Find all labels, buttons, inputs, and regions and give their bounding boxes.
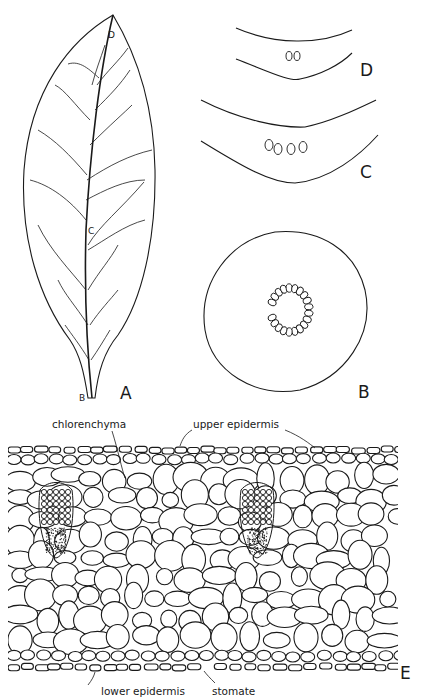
label-stomate: stomate <box>212 685 255 697</box>
label-chlorenchyma: chlorenchyma <box>52 418 126 430</box>
panel-e-tissue: chlorenchyma upper epidermis lower epide… <box>2 418 413 697</box>
mesophyll-cells <box>2 446 413 671</box>
panel-label-b: B <box>358 382 370 402</box>
panel-d-section: D <box>236 28 373 80</box>
leaf-outline <box>23 15 155 398</box>
midrib <box>85 15 113 398</box>
panel-label-a: A <box>120 383 132 403</box>
panel-c-section: C <box>201 100 378 183</box>
panel-label-d: D <box>360 60 373 80</box>
botanical-figure: D C B A D C B <box>0 0 423 700</box>
label-lower-epidermis: lower epidermis <box>101 685 185 697</box>
panel-label-e: E <box>400 663 411 683</box>
panel-a-leaf: D C B A <box>23 15 155 403</box>
panel-label-c: C <box>360 162 372 182</box>
leaf-marker-b: B <box>79 393 85 403</box>
label-upper-epidermis: upper epidermis <box>193 418 279 430</box>
leaf-marker-d: D <box>108 30 115 40</box>
panel-b-section: B <box>204 232 370 402</box>
vascular-ring <box>267 284 313 337</box>
leaf-marker-c: C <box>88 226 94 236</box>
lateral-veins <box>30 45 152 360</box>
